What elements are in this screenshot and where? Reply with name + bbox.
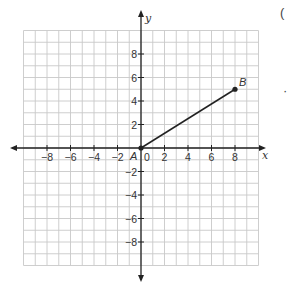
x-tick-label: 2	[162, 151, 168, 163]
point-b-label: B	[239, 76, 246, 88]
point-b-dot	[232, 87, 237, 92]
x-tick-label: 8	[232, 151, 238, 163]
x-axis-left-arrow-icon	[10, 145, 17, 151]
x-tick-label: −2	[112, 151, 124, 163]
point-a-label: A	[129, 150, 137, 162]
y-tick-label: 8	[131, 48, 137, 60]
x-tick-label: 6	[209, 151, 215, 163]
x-tick-label: −8	[41, 151, 53, 163]
y-tick-label: 6	[131, 72, 137, 84]
y-tick-label: −8	[125, 236, 137, 248]
x-tick-label: 0	[144, 151, 150, 163]
y-tick-label: −6	[125, 213, 137, 225]
cropped-paren-fragment: (	[280, 5, 284, 20]
y-axis-label: y	[144, 12, 152, 25]
y-axis-down-arrow-icon	[138, 275, 144, 282]
y-tick-label: −4	[125, 189, 137, 201]
point-a-dot	[138, 145, 143, 150]
x-tick-label: 4	[185, 151, 191, 163]
x-tick-label: −4	[88, 151, 100, 163]
x-tick-label: −6	[65, 151, 77, 163]
cropped-dot-fragment: ·	[283, 83, 287, 98]
y-tick-label: 2	[131, 119, 137, 131]
y-tick-label: −2	[125, 166, 137, 178]
coordinate-plane: −8−6−4−202468−8−6−4−22468 AB x y	[0, 0, 289, 288]
x-axis-label: x	[262, 149, 269, 162]
y-axis-up-arrow-icon	[138, 10, 144, 17]
axes	[10, 10, 266, 282]
y-tick-label: 4	[131, 95, 137, 107]
